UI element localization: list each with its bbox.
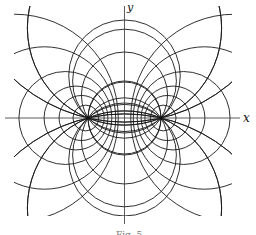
- coordinate-curves: [0, 0, 256, 235]
- y-axis-label: y: [126, 1, 134, 14]
- circle-through-foci: [0, 0, 256, 122]
- right-focus: [159, 116, 163, 120]
- figure-caption: Fig. 5: [116, 230, 143, 235]
- left-focus: [86, 116, 90, 120]
- circle-through-foci: [0, 114, 256, 235]
- x-axis-label: x: [243, 111, 250, 125]
- bipolar-diagram: y x Fig. 5: [0, 0, 256, 235]
- circle-through-foci: [0, 114, 256, 235]
- circle-through-foci: [0, 0, 256, 122]
